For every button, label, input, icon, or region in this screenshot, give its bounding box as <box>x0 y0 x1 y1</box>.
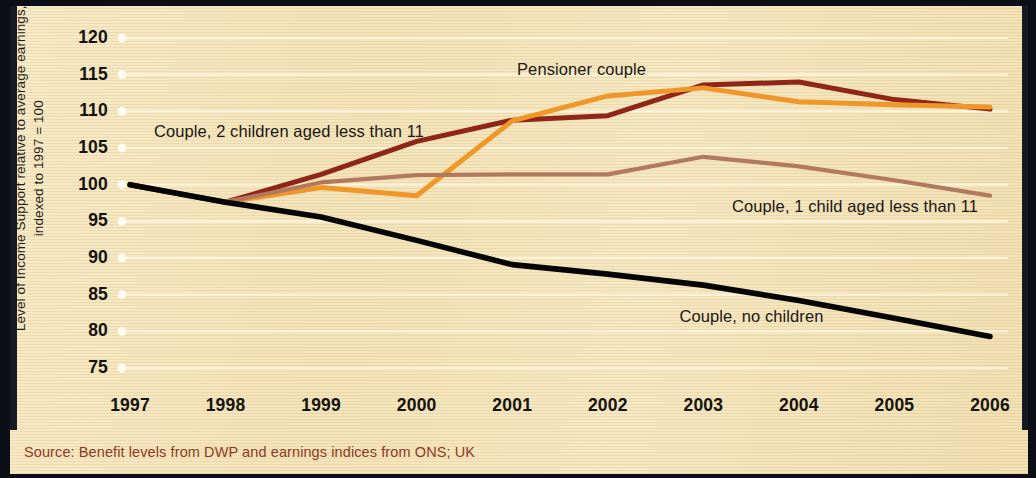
y-tick-label: 85 <box>62 284 108 305</box>
series-annotation-2: Couple, 1 child aged less than 11 <box>732 197 978 216</box>
y-tick-label: 80 <box>62 320 108 341</box>
y-tick-label: 110 <box>62 100 108 121</box>
y-tick-label: 75 <box>62 357 108 378</box>
x-tick-label: 2004 <box>754 395 844 416</box>
y-axis-title: Level of Income Support relative to aver… <box>12 0 48 338</box>
x-tick-label: 1999 <box>276 395 366 416</box>
y-tick-label: 105 <box>62 137 108 158</box>
y-tick-label: 100 <box>62 174 108 195</box>
x-tick-label: 2000 <box>372 395 462 416</box>
x-tick-label: 2006 <box>945 395 1035 416</box>
series-annotation-3: Couple, no children <box>679 307 823 326</box>
x-tick-label: 2001 <box>467 395 557 416</box>
chart-page: Level of Income Support relative to aver… <box>0 0 1036 478</box>
source-note: Source: Benefit levels from DWP and earn… <box>24 444 475 460</box>
y-tick-label: 95 <box>62 210 108 231</box>
y-tick-label: 120 <box>62 27 108 48</box>
x-tick-label: 1997 <box>85 395 175 416</box>
x-tick-label: 2002 <box>563 395 653 416</box>
x-tick-label: 2003 <box>658 395 748 416</box>
x-tick-label: 2005 <box>849 395 939 416</box>
y-tick-label: 115 <box>62 64 108 85</box>
series-annotation-0: Couple, 2 children aged less than 11 <box>154 122 424 141</box>
x-tick-label: 1998 <box>181 395 271 416</box>
line-chart: Level of Income Support relative to aver… <box>0 0 1036 478</box>
y-tick-label: 90 <box>62 247 108 268</box>
series-annotation-1: Pensioner couple <box>517 60 646 79</box>
series-line-2 <box>130 157 990 202</box>
